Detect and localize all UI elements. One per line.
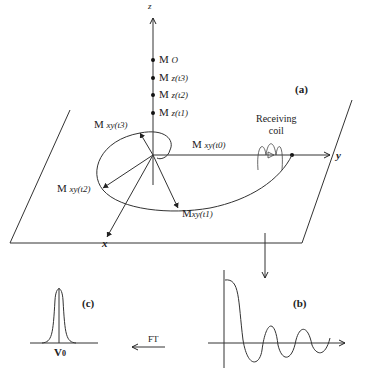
xy-plane [10, 100, 352, 243]
m0-label: M O [159, 54, 178, 65]
diagram-canvas [0, 0, 370, 378]
ft-label: FT [148, 335, 159, 344]
panel-b-label: (b) [293, 298, 306, 309]
z-axis-label: z [148, 2, 152, 11]
v0-label: V0 [54, 347, 66, 358]
y-axis-label: y [336, 150, 341, 161]
panel-c-label: (c) [82, 298, 94, 309]
mz-t3-label: M z(t3) [159, 72, 188, 83]
receiving-coil-icon [258, 144, 283, 170]
fid-signal-plot [208, 270, 345, 368]
mz-t1-label: M z(t1) [159, 107, 188, 118]
receiving-coil-label: Receivingcoil [256, 113, 297, 137]
panel-a-label: (a) [295, 84, 308, 95]
mxy-t2-label: M xy(t2) [57, 183, 91, 194]
mxy-t1-label: Mxy(t1) [182, 208, 213, 219]
x-axis [107, 155, 153, 237]
mxy-t3-label: M xy(t3) [94, 119, 128, 130]
mz-t2-label: M z(t2) [159, 89, 188, 100]
mxy-t0-label: M xy(t0) [192, 139, 226, 150]
x-axis-label: x [102, 238, 108, 249]
magnetization-vectors [103, 133, 178, 208]
